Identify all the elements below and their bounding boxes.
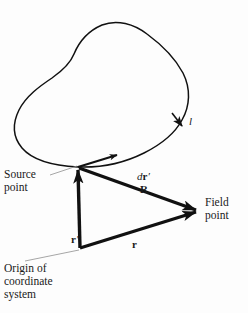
- dr-prime-mark: ′: [147, 170, 149, 182]
- dr-prime-vector-arrow: [78, 155, 117, 167]
- vector-r-prime-mark: ′: [76, 233, 78, 245]
- vector-r-prime-label: r′: [55, 211, 78, 265]
- loop-direction-arrow-icon: [172, 113, 182, 126]
- r-prime-vector-arrow: [78, 170, 80, 248]
- figure-container: Source point Field point Origin of coord…: [0, 0, 248, 313]
- dr-prime-label: dr′: [121, 148, 150, 202]
- source-point-leader-line: [50, 166, 77, 175]
- r-vector-arrow: [80, 212, 196, 248]
- field-point-label: Field point: [205, 196, 229, 222]
- origin-label: Origin of coordinate system: [4, 262, 53, 301]
- source-point-label: Source point: [4, 168, 36, 194]
- closed-loop-curve: [14, 22, 188, 167]
- loop-l-label: l: [189, 115, 192, 127]
- vector-r-label: r: [132, 238, 137, 250]
